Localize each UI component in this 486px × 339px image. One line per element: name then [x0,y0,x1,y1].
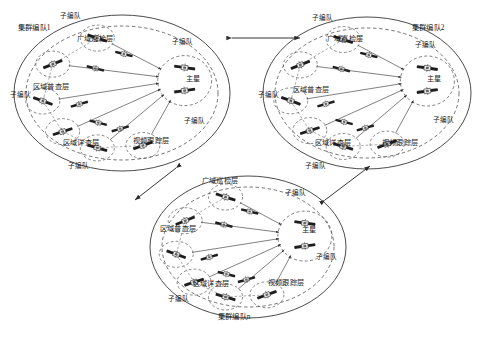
layer-label: 区域详查层 [63,140,99,147]
peer-link [300,40,343,65]
member-satellite [70,98,89,109]
intra-cluster-link [151,100,170,135]
subteam-label: 子编队 [285,190,307,197]
subteam-label: 子编队 [10,92,32,99]
inter-cluster-link-1-n [135,168,176,200]
cluster-name-cluster1: 集群编队1 [18,24,51,31]
intra-cluster-link [358,45,404,69]
intra-cluster-link [201,222,279,232]
intra-cluster-link [240,203,281,225]
main-satellite [173,62,196,73]
layer-label: 广域巡检层 [327,36,363,43]
layer-label: 视频跟踪层 [133,138,169,145]
member-satellite [165,247,187,261]
subteam-label: 子编队 [433,117,455,124]
layer-label: 区域详查层 [193,281,229,288]
member-satellite [111,123,130,134]
subteam-label: 子编队 [415,42,437,49]
layer-label: 广域巡检层 [202,178,238,185]
cluster-boundary [14,15,230,171]
member-satellite [334,116,353,127]
member-satellite [356,122,375,133]
main-node-label-cluster1: 主星 [186,76,200,83]
peer-link [291,65,301,101]
layer-label: 视频跟踪层 [382,140,418,147]
cluster-name-cluster2: 集群编队2 [412,24,445,31]
subteam-label: 子编队 [60,13,82,20]
intra-cluster-link [316,66,401,77]
subteam-label: 子编队 [316,254,338,261]
subteam-boundary [158,56,212,106]
intra-cluster-link [356,95,407,139]
main-node-label-clusterN: 主星 [302,227,316,234]
cluster-cluster1 [14,15,230,171]
intra-cluster-link [112,44,161,70]
member-satellite [217,269,236,280]
member-satellite [237,274,256,285]
member-satellite [316,98,335,109]
layer-label: 视频跟踪层 [268,280,304,287]
intra-cluster-link [69,66,159,77]
member-satellite [200,251,219,262]
subteam-label: 子编队 [168,296,190,303]
subteam-label: 子编队 [258,92,280,99]
main-satellite [416,62,439,73]
subteam-label: 子编队 [184,118,206,125]
layer-label: 区域普查层 [160,226,196,233]
cluster-name-clusterN: 集群编队n [218,313,251,320]
member-satellite [89,117,108,128]
intra-cluster-link [396,100,414,133]
layer-label: 区域普查层 [293,87,329,94]
diagram-canvas: 集群编队1主星广域巡检层区域普查层区域详查层视频跟踪层子编队子编队子编队子编队子… [0,0,486,339]
intra-cluster-link [325,90,404,126]
main-node-label-cluster2: 主星 [427,76,441,83]
layer-label: 广域巡检层 [77,36,113,43]
main-satellite [173,85,196,96]
layer-label: 区域详查层 [315,140,351,147]
peer-link [43,101,63,132]
subteam-label: 子编队 [312,15,334,22]
inter-cluster-link-2-n [325,166,370,200]
member-satellite [299,124,321,138]
intra-cluster-link [192,239,279,253]
intra-cluster-link [110,94,164,139]
subteam-label: 子编队 [172,39,194,46]
layer-label: 区域普查层 [33,84,69,91]
main-satellite [294,241,317,252]
intra-cluster-link [209,244,281,277]
subteam-label: 子编队 [68,163,90,170]
subteam-label: 子编队 [305,163,327,170]
cluster-inner-boundary [26,26,218,160]
main-satellite [416,85,439,96]
